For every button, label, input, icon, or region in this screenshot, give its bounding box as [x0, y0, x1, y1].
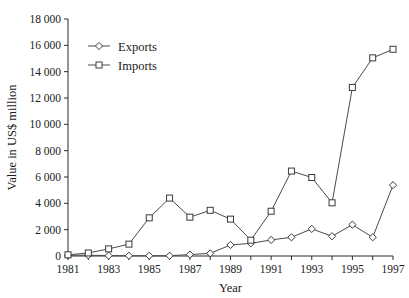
data-point-imports [268, 208, 274, 214]
data-point-imports [228, 216, 234, 222]
data-point-imports [390, 46, 396, 52]
data-point-exports [369, 234, 376, 241]
data-point-imports [329, 200, 335, 206]
data-point-exports [105, 252, 112, 259]
data-point-exports [227, 241, 234, 248]
x-axis-tick-label: 1995 [341, 263, 364, 275]
data-point-exports [268, 236, 275, 243]
x-axis-tick-label: 1987 [178, 263, 201, 275]
series-line-imports [68, 49, 393, 255]
data-point-imports [370, 55, 376, 61]
y-axis-tick-label: 10 000 [29, 118, 61, 130]
data-point-exports [166, 252, 173, 259]
data-point-imports [207, 207, 213, 213]
y-axis-tick-label: 4 000 [35, 197, 61, 209]
y-axis-tick-label: 18 000 [29, 13, 61, 25]
data-point-exports [308, 225, 315, 232]
data-point-imports [85, 250, 91, 256]
y-axis-tick-label: 6 000 [35, 171, 61, 183]
x-axis-title: Year [219, 281, 243, 295]
data-point-imports [65, 252, 71, 258]
chart-legend: ExportsImports [88, 40, 157, 73]
data-point-imports [288, 168, 294, 174]
chart-container: 02 0004 0006 0008 00010 00012 00014 0001… [0, 0, 409, 298]
y-axis-title: Value in US$ million [5, 84, 19, 191]
data-point-imports [187, 214, 193, 220]
x-axis-tick-label: 1991 [260, 263, 283, 275]
data-point-imports [248, 237, 254, 243]
data-point-imports [349, 84, 355, 90]
data-point-exports [146, 252, 153, 259]
data-point-exports [125, 252, 132, 259]
data-point-exports [328, 233, 335, 240]
y-axis-tick-label: 16 000 [29, 39, 61, 51]
x-axis-tick-label: 1985 [138, 263, 161, 275]
y-axis-tick-label: 8 000 [35, 145, 61, 157]
legend-label-exports: Exports [118, 40, 157, 54]
y-axis-tick-label: 2 000 [35, 224, 61, 236]
y-axis-tick-label: 0 [55, 250, 61, 262]
y-axis-tick-group: 02 0004 0006 0008 00010 00012 00014 0001… [29, 13, 68, 262]
data-point-imports [126, 241, 132, 247]
data-point-imports [106, 246, 112, 252]
x-axis-tick-label: 1997 [382, 263, 405, 275]
data-series-group [64, 46, 396, 259]
data-point-imports [309, 175, 315, 181]
x-axis-tick-label: 1993 [300, 263, 323, 275]
x-axis-tick-label: 1981 [57, 263, 80, 275]
data-point-imports [167, 195, 173, 201]
y-axis-tick-label: 12 000 [29, 92, 61, 104]
x-axis-tick-label: 1983 [97, 263, 120, 275]
line-chart: 02 0004 0006 0008 00010 00012 00014 0001… [0, 0, 409, 298]
data-point-exports [186, 251, 193, 258]
data-point-exports [349, 221, 356, 228]
legend-marker-imports [96, 62, 102, 68]
data-point-exports [389, 182, 396, 189]
legend-label-imports: Imports [118, 59, 157, 73]
legend-marker-exports [95, 42, 102, 49]
x-axis-tick-label: 1989 [219, 263, 242, 275]
data-point-exports [288, 234, 295, 241]
y-axis-tick-label: 14 000 [29, 66, 61, 78]
data-point-imports [146, 215, 152, 221]
